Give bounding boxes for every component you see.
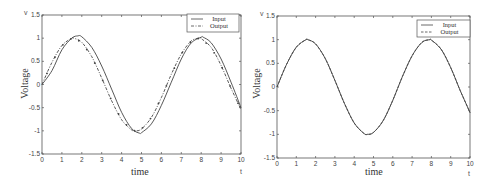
right-x-corner-label: t <box>468 170 470 177</box>
right-legend-item-output: Output <box>440 28 458 35</box>
left-x-axis-label: time <box>131 166 149 177</box>
left-x-tick-label: 6 <box>160 156 164 163</box>
right-y-axis-label: Voltage <box>251 64 262 104</box>
right-y-tick-label: 0.5 <box>266 59 275 66</box>
left-plot-area: 0123456789101.510.50-0.5-1-1.5InputOutpu… <box>0 0 245 185</box>
left-x-tick-label: 1 <box>60 156 64 163</box>
right-x-tick-label: 3 <box>333 160 337 167</box>
right-y-tick-label: 0 <box>271 83 275 90</box>
left-y-tick-label: 0.5 <box>31 57 40 64</box>
right-x-tick-label: 10 <box>466 160 474 167</box>
right-x-tick-label: 7 <box>410 160 414 167</box>
right-plot-area: 0123456789101.510.50-0.5-1-1.5InputOutpu… <box>243 0 487 185</box>
right-x-tick-label: 2 <box>314 160 318 167</box>
left-x-corner-label: t <box>240 168 242 175</box>
left-y-tick-label: -1.5 <box>29 150 41 157</box>
left-x-tick-label: 0 <box>40 156 44 163</box>
right-x-tick-label: 0 <box>275 160 279 167</box>
right-y-tick-label: -1 <box>269 130 275 137</box>
right-y-tick-label: -0.5 <box>264 107 276 114</box>
right-y-tick-label: 1 <box>271 36 275 43</box>
right-x-tick-label: 8 <box>430 160 434 167</box>
left-chart: 0123456789101.510.50-0.5-1-1.5InputOutpu… <box>0 0 245 185</box>
right-y-corner-label: v <box>260 10 264 17</box>
left-legend-item-output: Output <box>210 22 228 29</box>
left-x-tick-label: 8 <box>199 156 203 163</box>
left-x-tick-label: 4 <box>120 156 124 163</box>
left-y-tick-label: -1 <box>34 127 40 134</box>
right-x-tick-label: 4 <box>352 160 356 167</box>
left-y-tick-label: -0.5 <box>29 104 41 111</box>
right-x-tick-label: 6 <box>391 160 395 167</box>
right-legend: InputOutput <box>417 20 470 37</box>
left-x-tick-label: 9 <box>219 156 223 163</box>
left-y-axis-label: Voltage <box>19 64 30 104</box>
right-x-tick-label: 9 <box>449 160 453 167</box>
left-x-tick-label: 5 <box>140 156 144 163</box>
right-legend-item-input: Input <box>443 21 457 28</box>
left-y-tick-label: 1.5 <box>31 11 40 18</box>
right-chart: 0123456789101.510.50-0.5-1-1.5InputOutpu… <box>243 0 487 185</box>
right-y-tick-label: -1.5 <box>264 154 276 161</box>
left-x-tick-label: 7 <box>179 156 183 163</box>
right-x-tick-label: 1 <box>294 160 298 167</box>
right-x-axis-label: time <box>365 166 383 177</box>
left-legend-item-input: Input <box>212 15 226 22</box>
left-x-tick-label: 3 <box>100 156 104 163</box>
left-legend: InputOutput <box>187 14 239 32</box>
left-y-tick-label: 1 <box>36 34 40 41</box>
left-x-tick-label: 2 <box>80 156 84 163</box>
right-y-tick-label: 1.5 <box>266 12 275 19</box>
left-y-tick-label: 0 <box>36 81 40 88</box>
left-y-corner-label: v <box>24 9 28 16</box>
